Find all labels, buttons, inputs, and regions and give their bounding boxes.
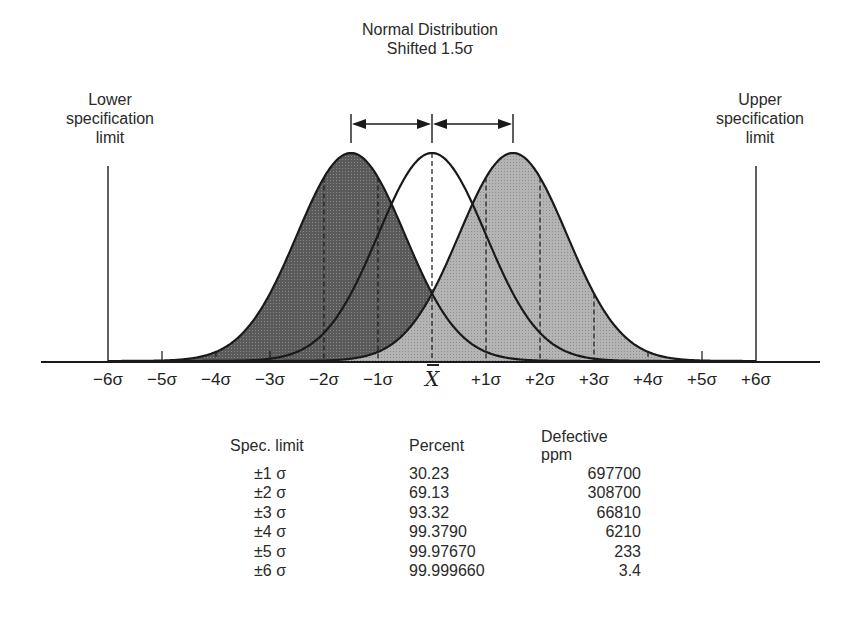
x-tick-label: +2σ bbox=[510, 370, 570, 390]
title-line-1: Normal Distribution bbox=[300, 20, 560, 39]
table-row: ±4 σ99.37906210 bbox=[230, 523, 641, 543]
arrowhead-right-icon bbox=[417, 119, 431, 129]
cell-percent: 99.999660 bbox=[409, 562, 541, 582]
chart-title: Normal Distribution Shifted 1.5σ bbox=[300, 20, 560, 58]
cell-spec-limit: ±2 σ bbox=[230, 484, 409, 504]
arrowhead-left-icon bbox=[433, 119, 447, 129]
cell-defective-ppm: 308700 bbox=[541, 484, 641, 504]
x-tick-label: −3σ bbox=[240, 370, 300, 390]
cell-percent: 30.23 bbox=[409, 464, 541, 484]
lower-spec-limit-label: Lower specification limit bbox=[50, 90, 170, 147]
x-tick-label: +1σ bbox=[456, 370, 516, 390]
x-tick-label: −5σ bbox=[132, 370, 192, 390]
spec-limit-table: Spec. limit Percent Defective ppm ±1 σ30… bbox=[230, 428, 641, 581]
label-line: specification bbox=[700, 109, 820, 128]
cell-percent: 69.13 bbox=[409, 484, 541, 504]
x-tick-label: −6σ bbox=[78, 370, 138, 390]
cell-defective-ppm: 3.4 bbox=[541, 562, 641, 582]
cell-defective-ppm: 233 bbox=[541, 542, 641, 562]
title-line-2: Shifted 1.5σ bbox=[300, 39, 560, 58]
mean-symbol: X bbox=[425, 367, 439, 391]
x-tick-label: −1σ bbox=[348, 370, 408, 390]
table-header-row: Spec. limit Percent Defective ppm bbox=[230, 428, 641, 464]
column-header-defective-ppm: Defective ppm bbox=[541, 428, 641, 464]
x-tick-label: −4σ bbox=[186, 370, 246, 390]
left-shifted-fill bbox=[108, 153, 432, 361]
x-tick-label: −2σ bbox=[294, 370, 354, 390]
cell-spec-limit: ±1 σ bbox=[230, 464, 409, 484]
x-tick-label: +4σ bbox=[618, 370, 678, 390]
table-row: ±5 σ99.97670233 bbox=[230, 542, 641, 562]
table-row: ±2 σ69.13308700 bbox=[230, 484, 641, 504]
cell-spec-limit: ±3 σ bbox=[230, 503, 409, 523]
table-row: ±3 σ93.3266810 bbox=[230, 503, 641, 523]
cell-percent: 99.3790 bbox=[409, 523, 541, 543]
arrowhead-right-icon bbox=[498, 119, 512, 129]
cell-defective-ppm: 6210 bbox=[541, 523, 641, 543]
cell-spec-limit: ±5 σ bbox=[230, 542, 409, 562]
overbar bbox=[427, 364, 439, 366]
x-tick-label-mean: X bbox=[402, 364, 462, 391]
label-line: specification bbox=[50, 109, 170, 128]
column-header-spec-limit: Spec. limit bbox=[230, 428, 409, 464]
label-line: Lower bbox=[50, 90, 170, 109]
cell-defective-ppm: 66810 bbox=[541, 503, 641, 523]
cell-percent: 93.32 bbox=[409, 503, 541, 523]
upper-spec-limit-label: Upper specification limit bbox=[700, 90, 820, 147]
x-tick-label: +5σ bbox=[672, 370, 732, 390]
table-row: ±1 σ30.23697700 bbox=[230, 464, 641, 484]
label-line: limit bbox=[700, 128, 820, 147]
cell-spec-limit: ±4 σ bbox=[230, 523, 409, 543]
table-row: ±6 σ99.9996603.4 bbox=[230, 562, 641, 582]
label-line: Upper bbox=[700, 90, 820, 109]
cell-defective-ppm: 697700 bbox=[541, 464, 641, 484]
x-tick-label: +6σ bbox=[726, 370, 786, 390]
x-tick-label: +3σ bbox=[564, 370, 624, 390]
column-header-percent: Percent bbox=[409, 428, 541, 464]
label-line: limit bbox=[50, 128, 170, 147]
arrowhead-left-icon bbox=[352, 119, 366, 129]
cell-percent: 99.97670 bbox=[409, 542, 541, 562]
cell-spec-limit: ±6 σ bbox=[230, 562, 409, 582]
